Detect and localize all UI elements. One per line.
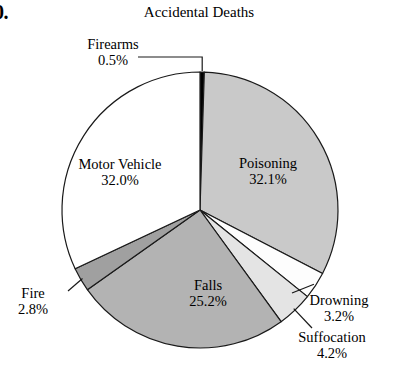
slice-label-fire-name: Fire: [2, 285, 64, 301]
slice-label-falls-percent: 25.2%: [168, 293, 248, 309]
slice-label-fire-percent: 2.8%: [2, 301, 64, 317]
slice-label-drowning: Drowning 3.2%: [284, 292, 394, 324]
slice-label-drowning-percent: 3.2%: [284, 308, 394, 324]
slice-label-motor-vehicle-percent: 32.0%: [55, 172, 185, 188]
slice-label-motor-vehicle-name: Motor Vehicle: [55, 156, 185, 172]
slice-label-firearms-percent: 0.5%: [58, 52, 168, 68]
slice-label-suffocation-percent: 4.2%: [268, 345, 396, 361]
slice-label-poisoning: Poisoning 32.1%: [218, 155, 318, 187]
slice-label-suffocation-name: Suffocation: [268, 329, 396, 345]
slice-label-firearms: Firearms 0.5%: [58, 36, 168, 68]
slice-label-falls: Falls 25.2%: [168, 277, 248, 309]
slice-label-falls-name: Falls: [168, 277, 248, 293]
slice-label-drowning-name: Drowning: [284, 292, 394, 308]
slice-label-firearms-name: Firearms: [58, 36, 168, 52]
leader-line-fire: [68, 279, 83, 292]
slice-label-poisoning-percent: 32.1%: [218, 171, 318, 187]
slice-label-fire: Fire 2.8%: [2, 285, 64, 317]
pie-chart-figure: 0. Accidental Deaths Firearms 0.5% Poiso…: [0, 0, 398, 379]
slice-label-suffocation: Suffocation 4.2%: [268, 329, 396, 361]
slice-label-poisoning-name: Poisoning: [218, 155, 318, 171]
slice-label-motor-vehicle: Motor Vehicle 32.0%: [55, 156, 185, 188]
